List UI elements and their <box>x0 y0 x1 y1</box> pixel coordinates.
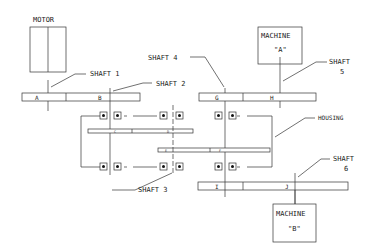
machine-b-sub: "B" <box>288 225 301 233</box>
shaft-4: SHAFT 4 <box>148 54 225 175</box>
motor-label: MOTOR <box>33 16 55 24</box>
shaft-5-label: SHAFT <box>329 58 351 66</box>
gear-e-label: E <box>165 149 167 153</box>
housing: C D E F HOUSING <box>81 112 344 170</box>
gear-f-label: F <box>219 149 221 153</box>
machine-a-sub: "A" <box>274 46 287 54</box>
shaft-6-label: SHAFT <box>333 155 355 163</box>
gear-b-label: B <box>98 94 102 101</box>
machine-b-label: MACHINE <box>276 210 306 218</box>
gear-row-ab <box>22 93 140 101</box>
gear-c-label: C <box>114 130 116 134</box>
gear-row-cd <box>88 129 193 133</box>
gear-i-label: I <box>215 183 219 190</box>
shaft-5-num: 5 <box>340 68 344 76</box>
housing-label: HOUSING <box>318 114 344 121</box>
machine-a-label: MACHINE <box>261 32 291 40</box>
gear-j-label: J <box>285 183 289 190</box>
shaft-1: SHAFT 1 <box>48 70 120 111</box>
gear-a-label: A <box>35 94 39 101</box>
shaft-1-label: SHAFT 1 <box>90 70 120 78</box>
machine-b: MACHINE "B" <box>273 190 316 242</box>
shaft-4-label: SHAFT 4 <box>148 54 178 62</box>
shaft-6-num: 6 <box>344 165 348 173</box>
shaft-3-label: SHAFT 3 <box>138 186 168 194</box>
shaft-6: SHAFT 6 <box>295 155 355 204</box>
gear-d-label: D <box>167 130 169 134</box>
gear-train-diagram: MOTOR SHAFT 1 A B SHAFT 2 SHAFT 4 MACHIN… <box>0 0 379 252</box>
shaft-2-label: SHAFT 2 <box>156 80 186 88</box>
gear-g-label: G <box>215 94 219 101</box>
gear-h-label: H <box>270 94 274 101</box>
gear-row-ij <box>198 182 348 190</box>
gear-row-ef <box>158 148 270 152</box>
motor: MOTOR <box>30 16 66 72</box>
